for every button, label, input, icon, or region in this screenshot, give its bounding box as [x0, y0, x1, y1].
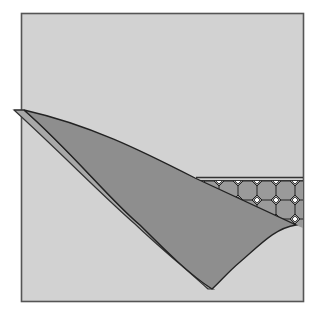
fold-diagram	[0, 0, 318, 318]
diagram-canvas: Folded flap over square with patterned b…	[0, 0, 318, 318]
